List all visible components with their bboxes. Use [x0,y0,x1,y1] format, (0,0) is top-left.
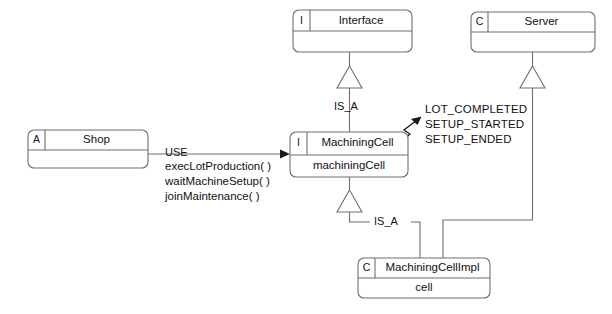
event-label-1: LOT_COMPLETED [425,102,527,117]
use-method-3: joinMaintenance( ) [165,189,260,204]
shop-class-name: Shop [45,133,148,146]
machiningcell-class-name: MachiningCell [307,136,408,149]
diagram-canvas [0,0,612,314]
machiningcellimpl-stereotype: C [358,261,375,273]
generalization-triangle-server [520,66,545,88]
event-label-2: SETUP_STARTED [425,117,524,132]
machiningcellimpl-attribute: cell [358,281,490,294]
machiningcellimpl-class-name: MachiningCellImpl [375,261,490,274]
edge-impl-elbow [350,212,371,222]
edge-label-is-a-interface: IS_A [334,100,358,113]
server-class-name: Server [488,15,595,28]
shop-stereotype: A [28,133,45,145]
generalization-triangle-machiningcell [337,190,362,212]
edge-impl-elbow-right [411,222,420,258]
edge-label-use: USE [165,146,188,159]
event-label-3: SETUP_ENDED [425,132,512,147]
use-method-2: waitMachineSetup( ) [165,174,270,189]
interface-class-name: Interface [310,14,412,27]
edge-label-is-a-impl: IS_A [374,215,398,228]
machiningcell-stereotype: I [290,136,307,148]
use-method-1: execLotProduction( ) [165,159,271,174]
interface-stereotype: I [293,14,310,26]
machiningcell-attribute: machiningCell [290,159,408,172]
uml-class-diagram: I Interface C Server A Shop I MachiningC… [0,0,612,314]
generalization-triangle-interface [337,66,362,88]
server-stereotype: C [471,15,488,27]
use-arrowhead [280,150,290,159]
